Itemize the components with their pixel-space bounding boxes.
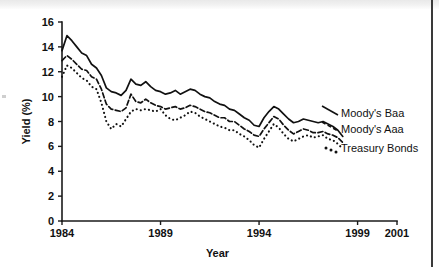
legend-label: Moody's Baa [341, 107, 405, 119]
legend-marker-dotted [325, 147, 328, 150]
y-tick-label: 2 [48, 190, 54, 202]
legend-label: Treasury Bonds [341, 142, 419, 154]
legend-marker-solid [322, 106, 338, 115]
legend-marker-dashed [322, 122, 338, 131]
y-tick-label: 0 [48, 215, 54, 227]
y-tick-label: 10 [42, 91, 54, 103]
yield-chart-figure: 0246810121416 19841989199419992001 Yield… [0, 0, 424, 267]
series-dashed [62, 56, 343, 143]
x-axis-tick-labels: 19841989199419992001 [50, 227, 409, 239]
y-tick-label: 4 [48, 165, 55, 177]
chart-svg: 0246810121416 19841989199419992001 Yield… [0, 0, 424, 267]
y-axis-tick-labels: 0246810121416 [42, 16, 55, 227]
x-axis-title: Year [206, 247, 230, 259]
y-tick-label: 12 [42, 66, 54, 78]
y-tick-label: 8 [48, 116, 54, 128]
series-dotted [62, 66, 343, 149]
y-tick-label: 16 [42, 16, 54, 28]
legend-marker-dotted [335, 151, 338, 154]
x-tick-label: 1994 [247, 227, 272, 239]
y-axis-title: Yield (%) [20, 98, 32, 144]
x-tick-label: 2001 [385, 227, 409, 239]
chart-series-group [62, 36, 343, 149]
x-tick-label: 1999 [345, 227, 369, 239]
series-solid [62, 36, 343, 137]
page-right-rule [431, 0, 433, 267]
x-tick-label: 1984 [50, 227, 75, 239]
legend-marker-dotted [330, 149, 333, 152]
chart-legend: Moody's BaaMoody's AaaTreasury Bonds [322, 106, 419, 154]
y-tick-label: 14 [42, 41, 55, 53]
legend-label: Moody's Aaa [341, 123, 405, 135]
y-tick-label: 6 [48, 140, 54, 152]
x-tick-label: 1989 [148, 227, 172, 239]
